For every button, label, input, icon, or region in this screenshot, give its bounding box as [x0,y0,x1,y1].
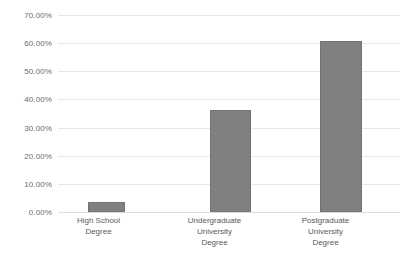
x-axis-category-label-postgraduate: Postgraduate University Degree [278,215,373,248]
y-axis-tick-label: 30.00% [0,124,52,133]
y-axis-tick-label: 10.00% [0,180,52,189]
y-axis-tick-label: 60.00% [0,39,52,48]
x-axis-category-label-high-school: High School Degree [56,215,141,237]
bar-high-school-degree[interactable] [88,202,125,212]
y-axis-tick-label: 40.00% [0,95,52,104]
bar-undergraduate-university-degree[interactable] [210,110,251,212]
x-axis-category-label-undergraduate: Undergraduate University Degree [167,215,262,248]
y-axis-tick-label: 0.00% [0,208,52,217]
bar-chart: 70.00% 60.00% 50.00% 40.00% 30.00% 20.00… [0,0,411,266]
y-axis-tick-label: 70.00% [0,11,52,20]
y-axis-tick-label: 50.00% [0,67,52,76]
gridline-0-baseline [58,212,400,213]
y-axis-tick-label: 20.00% [0,152,52,161]
plot-area [58,15,400,212]
gridline-70 [58,15,400,16]
bar-postgraduate-university-degree[interactable] [320,41,362,212]
